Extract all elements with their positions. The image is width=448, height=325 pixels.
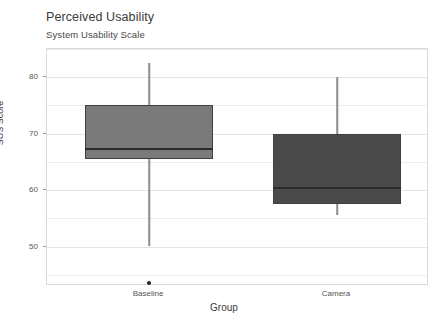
y-tick-label: 80 <box>29 72 38 81</box>
y-tick-mark <box>43 76 46 77</box>
y-axis-ticks: 50607080 <box>0 0 44 325</box>
plot-area <box>46 48 428 285</box>
chart-title: Perceived Usability <box>46 10 154 24</box>
y-tick-mark <box>43 189 46 190</box>
outlier-point <box>147 281 151 285</box>
x-axis-title: Group <box>0 302 448 313</box>
box-baseline <box>85 105 213 159</box>
gridline <box>47 275 427 276</box>
chart-subtitle: System Usability Scale <box>46 29 145 40</box>
box-camera <box>273 134 401 205</box>
gridline <box>47 49 427 50</box>
box-plot-chart: Perceived Usability System Usability Sca… <box>0 0 448 325</box>
y-tick-label: 70 <box>29 128 38 137</box>
y-tick-mark <box>43 246 46 247</box>
y-tick-label: 50 <box>29 241 38 250</box>
x-tick-label-camera: Camera <box>322 289 350 298</box>
x-tick-label-baseline: Baseline <box>133 289 164 298</box>
y-tick-mark <box>43 133 46 134</box>
y-axis-title: SUS Score <box>0 101 5 146</box>
gridline <box>47 218 427 219</box>
median-line <box>85 148 213 150</box>
y-tick-label: 60 <box>29 185 38 194</box>
median-line <box>273 187 401 189</box>
gridline <box>47 77 427 78</box>
gridline <box>47 247 427 248</box>
